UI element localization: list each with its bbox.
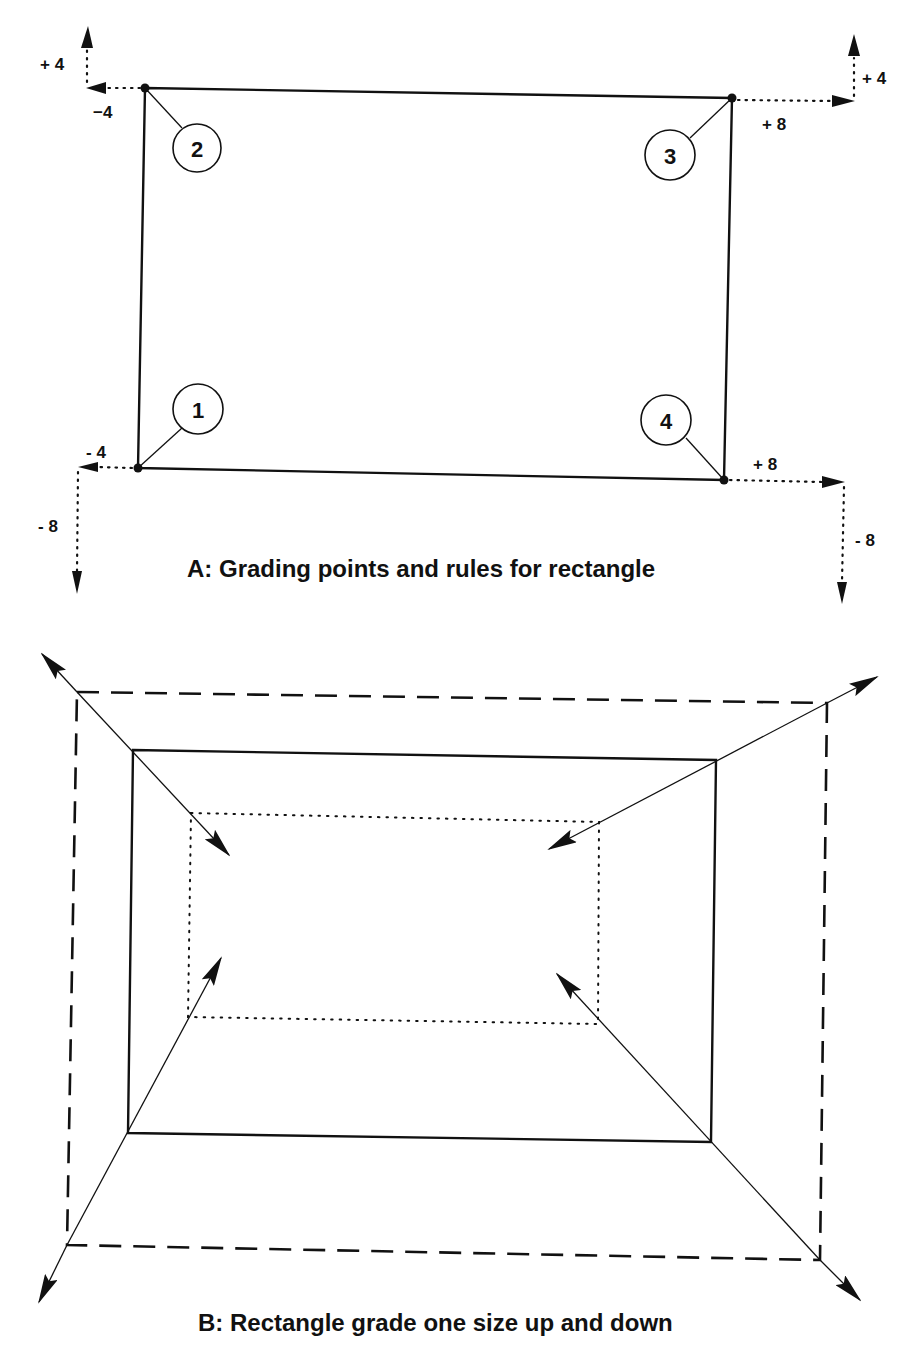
grading-diagram-canvas: 2 + 4 −4 3 + 4 + 8 1 - 4 xyxy=(0,0,922,1348)
x-rule-value-3: + 8 xyxy=(762,115,786,134)
arrow-down-icon xyxy=(72,571,82,594)
y-rule-value-1: - 8 xyxy=(38,517,58,536)
x-rule-line-4 xyxy=(730,480,822,482)
grading-point-4: 4 + 8 - 8 xyxy=(641,395,875,604)
caption-b: B: Rectangle grade one size up and down xyxy=(198,1309,673,1336)
callout-leader-1 xyxy=(138,428,182,468)
caption-a: A: Grading points and rules for rectangl… xyxy=(187,555,655,582)
callout-leader-2 xyxy=(145,88,182,128)
point-label-1: 1 xyxy=(192,398,204,423)
arrow-down-bottom-right-icon xyxy=(557,974,820,1260)
point-label-2: 2 xyxy=(191,137,203,162)
arrow-down-bottom-left-icon xyxy=(67,958,221,1245)
arrow-up-top-right-icon xyxy=(827,677,877,703)
y-rule-value-4: - 8 xyxy=(855,531,875,550)
arrow-up-icon xyxy=(848,34,860,56)
arrow-left-icon xyxy=(86,82,106,94)
arrow-right-icon xyxy=(832,95,855,107)
x-rule-value-2: −4 xyxy=(93,103,113,122)
y-rule-value-3: + 4 xyxy=(862,69,887,88)
y-rule-value-2: + 4 xyxy=(40,55,65,74)
grading-point-2: 2 + 4 −4 xyxy=(40,26,221,172)
grading-point-3: 3 + 4 + 8 xyxy=(645,34,887,180)
x-rule-line-3 xyxy=(738,100,832,101)
diagram-a: 2 + 4 −4 3 + 4 + 8 1 - 4 xyxy=(38,26,887,604)
arrow-down-top-right-icon xyxy=(549,703,827,849)
arrow-up-bottom-right-icon xyxy=(820,1260,860,1300)
arrow-left-icon xyxy=(78,462,98,472)
x-rule-value-1: - 4 xyxy=(86,443,106,462)
arrow-up-top-left-icon xyxy=(42,654,77,692)
arrow-down-top-left-icon xyxy=(77,692,229,855)
callout-leader-4 xyxy=(686,438,724,480)
arrow-right-icon xyxy=(822,476,845,488)
outline-base-size xyxy=(128,750,716,1142)
x-rule-value-4: + 8 xyxy=(753,455,777,474)
y-rule-line-4 xyxy=(842,487,844,582)
arrow-up-bottom-left-icon xyxy=(39,1245,67,1302)
outline-one-size-down xyxy=(188,813,599,1024)
point-label-4: 4 xyxy=(660,409,673,434)
y-rule-line-1 xyxy=(77,472,78,572)
point-label-3: 3 xyxy=(664,144,676,169)
arrow-down-icon xyxy=(837,582,847,604)
arrow-up-icon xyxy=(81,26,93,48)
x-rule-line-1 xyxy=(98,467,132,468)
diagram-b: B: Rectangle grade one size up and down xyxy=(39,654,877,1336)
callout-leader-3 xyxy=(690,98,732,138)
